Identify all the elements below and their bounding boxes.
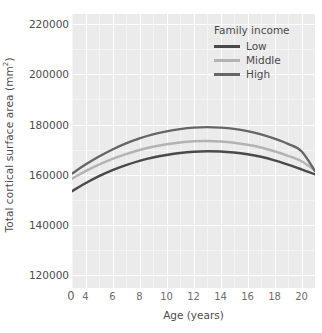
x-axis-tick-label: 8	[136, 291, 142, 302]
x-axis-tick-label: 12	[187, 291, 200, 302]
y-axis-title-superscript: 2	[3, 62, 11, 67]
legend-title: Family income	[214, 24, 318, 36]
y-axis-tick-label: 200000	[17, 68, 69, 80]
x-axis-tick-label: 4	[82, 291, 88, 302]
legend-item-label: Low	[246, 40, 267, 52]
series-line-low	[72, 151, 315, 191]
y-axis-tick-label: 120000	[17, 269, 69, 281]
y-axis-tick-labels: 120000140000160000180000200000220000	[14, 0, 69, 333]
legend: Family income LowMiddleHigh	[214, 24, 318, 81]
y-axis-tick-label: 220000	[17, 18, 69, 30]
y-axis-tick-label: 180000	[17, 119, 69, 131]
x-axis-tick-label: 20	[295, 291, 308, 302]
x-axis-tick-label: 18	[268, 291, 281, 302]
legend-item-high[interactable]: High	[214, 67, 318, 81]
legend-item-label: Middle	[246, 54, 281, 66]
legend-items: LowMiddleHigh	[214, 39, 318, 81]
x-axis-tick-label: 14	[214, 291, 227, 302]
chart-figure: Total cortical surface area (mm2) 120000…	[0, 0, 322, 333]
x-axis-tick-label: 16	[241, 291, 254, 302]
x-axis-tick-labels: 0468101214161820	[0, 291, 322, 307]
y-axis-tick-label: 140000	[17, 219, 69, 231]
legend-item-label: High	[246, 68, 270, 80]
y-axis-tick-label: 160000	[17, 169, 69, 181]
x-axis-tick-label: 10	[160, 291, 173, 302]
x-axis-tick-label: 6	[109, 291, 115, 302]
x-axis-origin-label: 0	[67, 289, 74, 303]
legend-item-low[interactable]: Low	[214, 39, 318, 53]
series-line-high	[72, 127, 315, 173]
legend-swatch-icon	[214, 73, 240, 76]
legend-item-middle[interactable]: Middle	[214, 53, 318, 67]
x-axis-title: Age (years)	[72, 309, 315, 321]
legend-swatch-icon	[214, 45, 240, 48]
legend-swatch-icon	[214, 59, 240, 62]
